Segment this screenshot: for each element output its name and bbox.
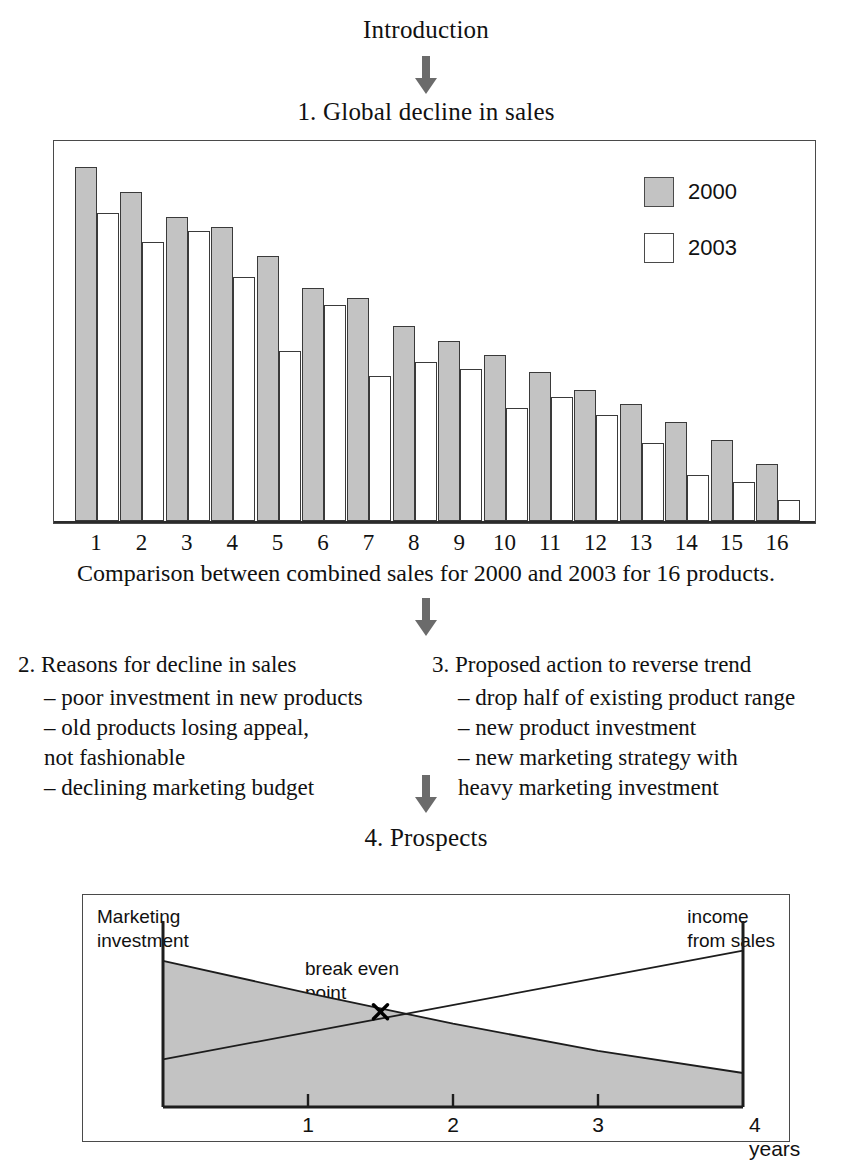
bar-2000-15 [711,440,733,521]
bar-2003-1 [97,213,119,521]
bar-2000-14 [665,422,687,521]
bar-x-tick-2: 2 [121,530,161,556]
prospects-x-tick-1: 1 [288,1113,328,1137]
bar-2000-13 [620,404,642,521]
bar-x-tick-4: 4 [212,530,252,556]
list-item: – poor investment in new products [44,683,418,713]
prospects-plot [83,895,791,1143]
section-1-title: 1. Global decline in sales [0,98,852,126]
bar-x-tick-3: 3 [167,530,207,556]
bar-x-tick-7: 7 [348,530,388,556]
bar-2003-3 [188,231,210,521]
legend-label-2000: 2000 [688,179,737,205]
prospects-x-tick-3: 3 [578,1113,618,1137]
chart-1-caption: Comparison between combined sales for 20… [0,560,852,587]
bar-2003-5 [279,351,301,521]
slide-canvas: Introduction 1. Global decline in sales … [0,0,852,1168]
bar-2000-8 [393,326,415,521]
bar-x-tick-10: 10 [485,530,525,556]
prospects-x-end-label: 4 years [749,1113,800,1161]
bar-2000-11 [529,372,551,521]
bar-chart-baseline [54,521,815,523]
reasons-title: 2. Reasons for decline in sales [18,650,418,680]
bar-2003-15 [733,482,755,521]
section-4-title: 4. Prospects [0,824,852,852]
bar-2000-9 [438,341,460,521]
bar-x-tick-6: 6 [303,530,343,556]
list-item: – new marketing strategy with [458,743,852,773]
down-arrow-icon-2 [413,598,439,638]
column-reasons: 2. Reasons for decline in sales – poor i… [18,650,418,802]
bar-2003-11 [551,397,573,521]
bar-2000-4 [211,227,233,521]
bar-2003-16 [778,500,800,521]
column-actions: 3. Proposed action to reverse trend – dr… [432,650,852,802]
prospects-chart: Marketing investment income from sales b… [82,894,790,1142]
reasons-list: – poor investment in new products – old … [18,683,418,803]
bar-2003-7 [369,376,391,521]
bar-x-tick-12: 12 [575,530,615,556]
bar-x-tick-1: 1 [76,530,116,556]
legend-item-2000: 2000 [644,177,737,207]
down-arrow-icon-3 [413,775,439,815]
bar-2003-10 [506,408,528,521]
bar-x-tick-5: 5 [258,530,298,556]
prospects-x-tick-2: 2 [433,1113,473,1137]
bar-2000-10 [484,355,506,521]
list-item: heavy marketing investment [458,773,852,803]
bar-2003-14 [687,475,709,521]
bar-2000-1 [75,167,97,521]
bar-2000-3 [166,217,188,521]
list-item: – new product investment [458,713,852,743]
bar-chart: 2000 2003 [53,140,816,524]
bar-2003-2 [142,242,164,521]
bar-2003-13 [642,443,664,521]
legend-swatch-2003 [644,233,674,263]
bar-2003-8 [415,362,437,521]
list-item: – declining marketing budget [44,773,418,803]
bar-2000-7 [347,298,369,521]
list-item: not fashionable [44,743,418,773]
list-item: – old products losing appeal, [44,713,418,743]
bar-x-tick-14: 14 [666,530,706,556]
bar-x-tick-13: 13 [621,530,661,556]
bar-2000-2 [120,192,142,521]
actions-title: 3. Proposed action to reverse trend [432,650,852,680]
bar-2000-12 [574,390,596,521]
list-item: – drop half of existing product range [458,683,852,713]
bar-2003-9 [460,369,482,521]
actions-list: – drop half of existing product range – … [432,683,852,803]
bar-2000-16 [756,464,778,521]
down-arrow-icon-1 [413,56,439,96]
legend-label-2003: 2003 [688,235,737,261]
bar-x-tick-11: 11 [530,530,570,556]
legend-item-2003: 2003 [644,233,737,263]
bar-2003-6 [324,305,346,521]
bar-2000-6 [302,288,324,521]
bar-2003-4 [233,277,255,521]
bar-x-tick-9: 9 [439,530,479,556]
bar-x-tick-16: 16 [757,530,797,556]
bar-x-tick-8: 8 [394,530,434,556]
legend-swatch-2000 [644,177,674,207]
intro-title: Introduction [0,16,852,44]
bar-2000-5 [257,256,279,521]
bar-x-tick-15: 15 [712,530,752,556]
bar-2003-12 [596,415,618,521]
